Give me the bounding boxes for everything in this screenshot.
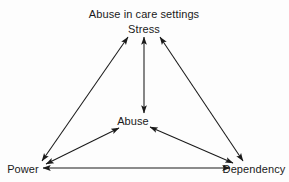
edge-power-abuse: [46, 128, 119, 164]
edge-power-stress: [42, 37, 128, 161]
edge-stress-dependency: [160, 37, 243, 161]
diagram-title: Abuse in care settings: [89, 8, 199, 20]
node-label-power: Power: [7, 163, 39, 175]
node-label-stress: Stress: [128, 23, 160, 35]
node-label-dependency: Dependency: [223, 163, 286, 175]
node-label-abuse: Abuse: [117, 115, 149, 127]
diagram-canvas: Abuse in care settings Stress Abuse Powe…: [0, 0, 289, 182]
edge-abuse-dependency: [150, 127, 233, 163]
